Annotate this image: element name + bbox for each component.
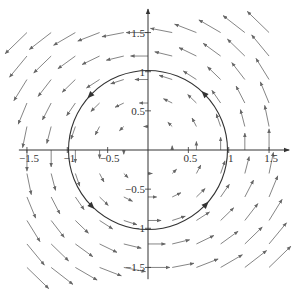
field-arrow xyxy=(62,80,75,93)
field-arrow xyxy=(27,267,49,288)
field-arrow xyxy=(260,82,269,103)
field-arrow xyxy=(91,103,100,111)
field-arrow xyxy=(172,263,194,267)
y-tick-label: 1 xyxy=(140,66,146,78)
field-arrow xyxy=(27,173,31,194)
field-arrow xyxy=(155,52,172,56)
field-arrow xyxy=(212,90,221,103)
field-arrow xyxy=(58,56,75,69)
field-arrow xyxy=(221,208,234,221)
field-arrow xyxy=(54,33,76,46)
x-tick-label: −0.5 xyxy=(100,152,120,164)
field-arrow xyxy=(100,220,113,228)
field-arrow xyxy=(10,56,27,77)
field-arrow xyxy=(100,173,104,181)
field-arrow xyxy=(196,189,205,197)
field-arrow xyxy=(124,197,133,201)
field-arrow xyxy=(18,103,27,124)
field-arrow xyxy=(75,267,97,280)
field-arrow xyxy=(199,20,221,33)
field-arrow xyxy=(203,43,220,56)
coordinate-axes: −1.5−1−0.50.511.5 1.510.5−0.5−1−1.5 xyxy=(19,9,289,279)
field-arrow xyxy=(172,240,189,244)
field-arrow xyxy=(179,48,196,56)
field-arrow xyxy=(51,173,55,190)
vector-field-plot: −1.5−1−0.50.511.5 1.510.5−0.5−1−1.5 xyxy=(0,0,298,292)
field-arrow xyxy=(119,127,123,131)
field-arrow xyxy=(245,157,249,174)
field-arrow xyxy=(269,223,286,244)
field-arrow xyxy=(221,184,230,197)
field-arrow xyxy=(51,244,68,261)
field-arrow xyxy=(245,227,262,244)
field-arrow xyxy=(245,251,267,268)
field-arrow xyxy=(240,110,244,127)
field-arrow xyxy=(38,80,51,97)
field-arrow xyxy=(23,127,27,148)
field-arrow xyxy=(75,220,88,233)
field-arrow xyxy=(14,80,27,101)
field-arrow xyxy=(75,197,84,210)
field-arrow xyxy=(172,216,185,220)
x-tick-label: 1.5 xyxy=(264,152,278,164)
y-tick-label: −1.5 xyxy=(125,261,145,273)
field-arrow xyxy=(29,33,51,50)
field-arrow xyxy=(223,16,245,33)
field-arrow xyxy=(196,259,218,267)
field-arrow xyxy=(196,236,213,244)
field-arrow xyxy=(227,39,244,56)
field-arrow xyxy=(27,197,36,218)
field-arrow xyxy=(51,197,60,214)
field-arrow xyxy=(124,244,141,248)
field-arrow xyxy=(5,33,27,54)
field-arrow xyxy=(115,103,124,107)
y-tick-label: −0.5 xyxy=(125,183,145,195)
x-tick-label: −1.5 xyxy=(19,152,39,164)
field-arrow xyxy=(51,220,64,237)
field-arrow xyxy=(87,80,100,88)
field-arrow xyxy=(27,244,44,265)
field-arrow xyxy=(82,56,99,64)
field-arrow xyxy=(256,58,269,79)
field-arrow xyxy=(47,127,51,144)
field-arrow xyxy=(106,56,123,60)
field-arrow xyxy=(232,63,245,80)
field-arrow xyxy=(221,231,238,244)
field-arrow xyxy=(188,95,197,103)
field-arrow xyxy=(172,169,176,173)
field-arrow xyxy=(42,103,51,120)
x-tick-label: 0.5 xyxy=(183,152,197,164)
y-tick-label: 1.5 xyxy=(131,27,145,39)
field-arrow xyxy=(245,204,258,221)
field-arrow xyxy=(163,99,172,103)
field-arrow xyxy=(236,86,245,103)
field-arrow xyxy=(100,197,109,205)
field-arrow xyxy=(269,199,282,220)
field-arrow xyxy=(208,67,221,80)
field-arrow xyxy=(247,11,269,32)
field-arrow xyxy=(51,267,73,284)
field-arrow xyxy=(269,176,278,197)
field-arrow xyxy=(75,244,92,257)
field-arrow xyxy=(265,105,269,126)
field-arrow xyxy=(221,255,243,268)
field-arrow xyxy=(34,56,51,73)
field-arrow xyxy=(159,75,172,79)
field-arrow xyxy=(78,33,100,41)
field-arrow xyxy=(67,103,76,116)
field-arrow xyxy=(196,165,200,173)
field-arrow xyxy=(27,220,40,241)
x-tick-label: 1 xyxy=(228,152,234,164)
field-arrow xyxy=(124,173,128,177)
y-tick-label: 0.5 xyxy=(131,105,145,117)
field-arrow xyxy=(95,127,99,135)
field-arrow xyxy=(245,180,254,197)
field-arrow xyxy=(100,267,122,275)
field-arrow xyxy=(269,246,291,267)
field-arrow xyxy=(100,244,117,252)
vector-field-figure: −1.5−1−0.50.511.5 1.510.5−0.5−1−1.5 xyxy=(0,0,298,292)
field-arrow xyxy=(175,24,197,32)
field-arrow xyxy=(192,118,196,126)
field-arrow xyxy=(196,212,209,220)
field-arrow xyxy=(172,193,181,197)
